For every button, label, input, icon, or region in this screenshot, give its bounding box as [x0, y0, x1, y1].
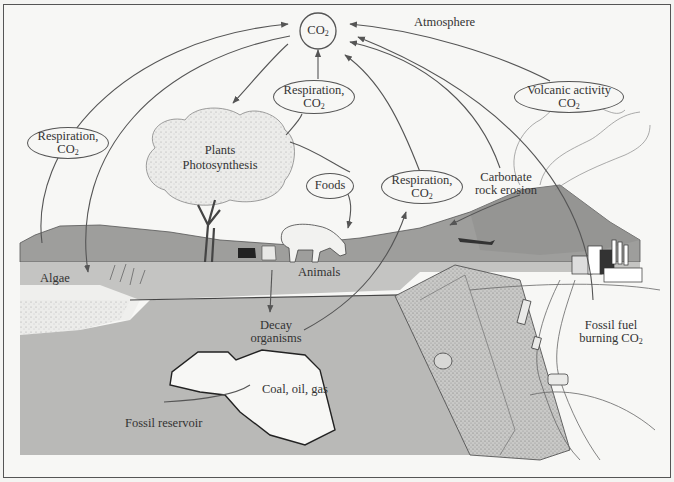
animals-label: Animals — [298, 266, 340, 279]
co2-text: CO — [558, 96, 575, 110]
plants-photosynthesis-label: Plants Photosynthesis — [165, 144, 275, 172]
respiration-animals-label: Respiration, CO2 — [381, 174, 463, 203]
subscript: 2 — [429, 192, 433, 201]
algae-label: Algae — [40, 272, 70, 285]
co2-center-label: CO2 — [300, 24, 336, 40]
subscript: 2 — [321, 102, 325, 111]
carbon-cycle-illustration — [0, 0, 674, 482]
respiration-left-label: Respiration, CO2 — [27, 130, 109, 159]
line2: CO2 — [273, 97, 355, 113]
co2-text: CO — [303, 96, 320, 110]
subscript: 2 — [75, 148, 79, 157]
co2-text: CO — [307, 23, 324, 37]
coal-oil-gas-label: Coal, oil, gas — [262, 383, 328, 396]
line2: burning CO2 — [573, 332, 649, 348]
subscript: 2 — [639, 337, 643, 346]
decay-organisms-label: Decay organisms — [240, 319, 312, 345]
respiration-plants-label: Respiration, CO2 — [273, 84, 355, 113]
fossil-reservoir-label: Fossil reservoir — [125, 417, 202, 430]
burning-co2-text: burning CO — [579, 331, 638, 345]
carbonate-rock-erosion-label: Carbonate rock erosion — [470, 171, 542, 197]
atmosphere-label: Atmosphere — [414, 16, 475, 29]
line2: CO2 — [514, 97, 624, 113]
fossil-fuel-burning-label: Fossil fuel burning CO2 — [573, 319, 649, 348]
line2: rock erosion — [470, 184, 542, 197]
subscript: 2 — [325, 29, 329, 38]
foods-label: Foods — [306, 179, 354, 192]
volcanic-activity-label: Volcanic activity CO2 — [514, 84, 624, 113]
co2-text: CO — [57, 142, 74, 156]
line1: Plants — [165, 144, 275, 157]
line2: Photosynthesis — [165, 159, 275, 172]
line2: organisms — [240, 332, 312, 345]
line2: CO2 — [27, 143, 109, 159]
line2: CO2 — [381, 187, 463, 203]
subscript: 2 — [576, 102, 580, 111]
co2-text: CO — [411, 186, 428, 200]
